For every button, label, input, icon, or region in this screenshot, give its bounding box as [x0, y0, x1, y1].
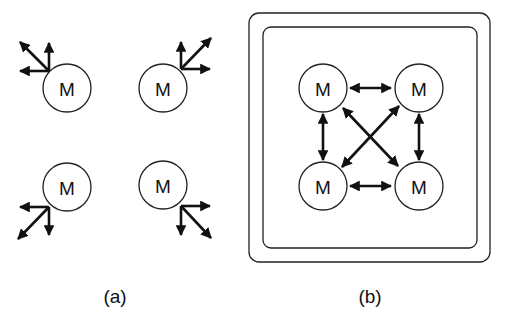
- module-b-bottom-right: M: [395, 162, 443, 210]
- caption-a: (a): [103, 286, 126, 307]
- panel-b: M M M M (b): [249, 13, 490, 307]
- caption-b: (b): [358, 286, 381, 307]
- module-label: M: [411, 177, 427, 198]
- module-label: M: [411, 79, 427, 100]
- module-a-bottom-left: M: [18, 163, 91, 239]
- module-a-top-right: M: [139, 38, 211, 112]
- module-b-top-left: M: [299, 64, 347, 112]
- module-a-bottom-right: M: [139, 161, 211, 238]
- module-b-bottom-left: M: [299, 162, 347, 210]
- module-label: M: [59, 79, 75, 100]
- module-label: M: [315, 79, 331, 100]
- module-label: M: [315, 177, 331, 198]
- module-label: M: [59, 178, 75, 199]
- panel-a: M M M: [18, 38, 211, 307]
- module-a-top-left: M: [20, 42, 91, 112]
- diagram-canvas: M M M: [0, 0, 506, 318]
- module-label: M: [155, 79, 171, 100]
- outward-arrows-icon: [181, 38, 211, 69]
- module-b-top-right: M: [395, 64, 443, 112]
- outward-arrows-icon: [20, 42, 49, 71]
- outward-arrows-icon: [181, 206, 211, 238]
- module-label: M: [155, 176, 171, 197]
- outward-arrows-icon: [18, 207, 49, 239]
